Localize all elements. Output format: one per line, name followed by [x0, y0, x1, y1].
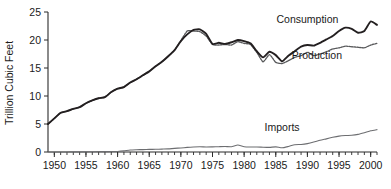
x-tick-label-1980: 1980 [232, 159, 256, 171]
y-axis-tick-labels: 0510152025 [29, 6, 41, 158]
y-tick-label-0: 0 [35, 146, 41, 158]
x-tick-label-1955: 1955 [74, 159, 98, 171]
series-line-consumption [48, 21, 377, 124]
x-tick-label-1995: 1995 [327, 159, 351, 171]
x-tick-label-1990: 1990 [296, 159, 320, 171]
plot-lines [48, 21, 377, 152]
x-tick-label-1975: 1975 [201, 159, 225, 171]
y-axis-group: 0510152025 [29, 6, 48, 158]
x-tick-label-1970: 1970 [169, 159, 193, 171]
x-axis-tick-labels: 1950195519601965197019751980198519901995… [43, 159, 383, 171]
y-tick-label-25: 25 [29, 6, 41, 18]
x-tick-label-1965: 1965 [138, 159, 162, 171]
x-tick-label-1960: 1960 [106, 159, 130, 171]
series-line-imports [48, 130, 377, 152]
y-tick-label-15: 15 [29, 62, 41, 74]
y-tick-label-5: 5 [35, 118, 41, 130]
y-axis-title: Trillion Cubic Feet [3, 41, 15, 125]
x-tick-label-1985: 1985 [264, 159, 288, 171]
gas-consumption-production-imports-chart: 0510152025 19501955196019651970197519801… [0, 0, 391, 189]
series-annotations: ConsumptionProductionImports [265, 13, 343, 133]
series-label-production: Production [292, 49, 342, 61]
x-axis-group: 1950195519601965197019751980198519901995… [43, 152, 383, 171]
y-tick-label-10: 10 [29, 90, 41, 102]
y-axis-ticks [44, 12, 48, 152]
chart-svg: 0510152025 19501955196019651970197519801… [0, 0, 391, 189]
series-label-consumption: Consumption [276, 13, 338, 25]
x-axis-ticks [54, 152, 370, 157]
x-tick-label-2000: 2000 [359, 159, 383, 171]
y-tick-label-20: 20 [29, 34, 41, 46]
series-label-imports: Imports [265, 121, 300, 133]
x-tick-label-1950: 1950 [43, 159, 67, 171]
